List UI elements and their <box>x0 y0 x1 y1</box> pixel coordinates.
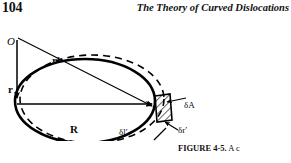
label-origin: O <box>7 36 15 47</box>
figure-caption-text: A c <box>228 143 240 153</box>
label-R: R <box>70 124 78 135</box>
hatched-area-element <box>155 94 172 122</box>
dislocation-loop-svg <box>0 16 291 141</box>
label-delta-A: δA <box>184 101 195 110</box>
delta-r-prime-leader <box>165 122 178 130</box>
figure-diagram: O r′ r R δl′ δA δr′ <box>0 16 291 141</box>
figure-caption: FIGURE 4-5. A c <box>178 143 240 153</box>
figure-tail-stroke <box>154 128 166 140</box>
page-number: 104 <box>2 0 22 16</box>
solid-loop <box>15 59 155 141</box>
r-prime-arrow <box>18 38 152 106</box>
label-delta-r-prime: δr′ <box>178 126 187 135</box>
running-head-title: The Theory of Curved Dislocations <box>137 2 289 13</box>
figure-caption-number: FIGURE 4-5. <box>178 143 227 153</box>
textbook-page: 104 The Theory of Curved Dislocations <box>0 0 291 163</box>
label-r-prime: r′ <box>52 55 60 66</box>
label-delta-l-prime: δl′ <box>119 128 128 137</box>
label-r: r <box>8 84 13 95</box>
